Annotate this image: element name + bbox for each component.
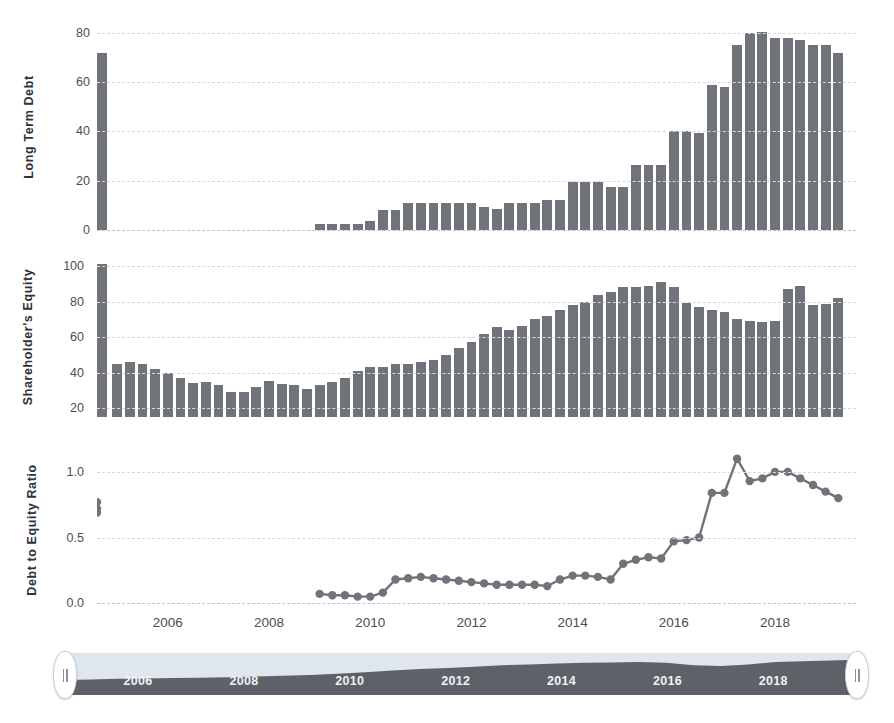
data-point[interactable] (733, 455, 741, 463)
bar[interactable] (530, 203, 540, 230)
bar[interactable] (682, 303, 692, 417)
data-point[interactable] (720, 489, 728, 497)
bar[interactable] (745, 321, 755, 417)
bar[interactable] (315, 385, 325, 417)
range-selector-right-handle[interactable] (845, 651, 869, 699)
range-selector[interactable]: 2006200820102012201420162018 (64, 653, 858, 695)
bar[interactable] (429, 203, 439, 230)
bar[interactable] (795, 286, 805, 417)
bar[interactable] (580, 302, 590, 417)
bar[interactable] (783, 38, 793, 230)
data-point[interactable] (493, 581, 501, 589)
data-point[interactable] (417, 573, 425, 581)
bar[interactable] (327, 382, 337, 417)
data-point[interactable] (379, 588, 387, 596)
bar[interactable] (770, 38, 780, 230)
data-point[interactable] (480, 579, 488, 587)
bar[interactable] (821, 45, 831, 230)
data-point[interactable] (341, 591, 349, 599)
data-point[interactable] (606, 575, 614, 583)
bar[interactable] (97, 264, 107, 417)
data-point[interactable] (353, 592, 361, 600)
bar[interactable] (720, 312, 730, 417)
data-point[interactable] (505, 581, 513, 589)
bar[interactable] (277, 384, 287, 417)
data-point[interactable] (531, 581, 539, 589)
data-point[interactable] (442, 575, 450, 583)
data-point[interactable] (543, 582, 551, 590)
data-point[interactable] (809, 481, 817, 489)
bar[interactable] (340, 378, 350, 417)
bar[interactable] (656, 165, 666, 230)
bar[interactable] (808, 45, 818, 230)
bar[interactable] (201, 382, 211, 417)
bar[interactable] (606, 292, 616, 417)
data-point[interactable] (632, 556, 640, 564)
bar[interactable] (795, 40, 805, 230)
bar[interactable] (644, 286, 654, 417)
bar[interactable] (454, 203, 464, 230)
bar[interactable] (568, 182, 578, 230)
data-point[interactable] (556, 575, 564, 583)
bar[interactable] (732, 319, 742, 417)
bar[interactable] (631, 287, 641, 417)
bar[interactable] (264, 381, 274, 417)
bar[interactable] (163, 373, 173, 417)
bar[interactable] (618, 287, 628, 417)
data-point[interactable] (391, 575, 399, 583)
bar[interactable] (707, 310, 717, 417)
data-point[interactable] (657, 554, 665, 562)
bar[interactable] (365, 221, 375, 230)
bar[interactable] (188, 383, 198, 417)
bar[interactable] (732, 45, 742, 230)
bar[interactable] (479, 207, 489, 230)
bar[interactable] (593, 295, 603, 417)
bar[interactable] (353, 371, 363, 417)
data-point[interactable] (568, 571, 576, 579)
data-point[interactable] (834, 494, 842, 502)
bar[interactable] (239, 392, 249, 417)
range-selector-left-handle[interactable] (53, 651, 77, 699)
data-point[interactable] (581, 571, 589, 579)
bar[interactable] (555, 310, 565, 417)
data-point[interactable] (455, 577, 463, 585)
bar[interactable] (833, 53, 843, 230)
bar[interactable] (555, 200, 565, 230)
bar[interactable] (618, 187, 628, 230)
data-point[interactable] (467, 578, 475, 586)
bar[interactable] (454, 348, 464, 417)
data-point[interactable] (619, 560, 627, 568)
data-point[interactable] (366, 592, 374, 600)
bar[interactable] (808, 305, 818, 417)
bar[interactable] (694, 307, 704, 417)
bar[interactable] (479, 334, 489, 417)
bar[interactable] (770, 321, 780, 417)
bar[interactable] (391, 210, 401, 230)
bar[interactable] (720, 87, 730, 230)
bar[interactable] (631, 165, 641, 230)
bar[interactable] (97, 53, 107, 230)
data-point[interactable] (758, 474, 766, 482)
data-point[interactable] (518, 581, 526, 589)
bar[interactable] (365, 367, 375, 417)
bar[interactable] (504, 203, 514, 230)
bar[interactable] (669, 287, 679, 417)
bar[interactable] (821, 304, 831, 417)
bar[interactable] (467, 203, 477, 230)
bar[interactable] (214, 385, 224, 417)
bar[interactable] (542, 200, 552, 230)
data-point[interactable] (315, 590, 323, 598)
bar[interactable] (403, 203, 413, 230)
bar[interactable] (492, 209, 502, 230)
bar[interactable] (530, 319, 540, 417)
bar[interactable] (644, 165, 654, 230)
bar[interactable] (441, 203, 451, 230)
bar[interactable] (226, 392, 236, 417)
bar[interactable] (542, 316, 552, 417)
data-point[interactable] (821, 487, 829, 495)
bar[interactable] (302, 389, 312, 417)
data-point[interactable] (746, 477, 754, 485)
data-point[interactable] (404, 574, 412, 582)
data-point[interactable] (644, 553, 652, 561)
range-selector-track[interactable]: 2006200820102012201420162018 (64, 653, 858, 695)
